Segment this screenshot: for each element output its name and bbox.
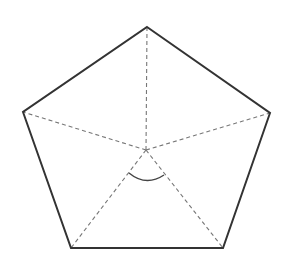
pentagon-outline: [23, 27, 270, 248]
radius-left: [23, 112, 146, 150]
pentagon-diagram: [0, 0, 299, 277]
radius-top: [146, 27, 147, 150]
radius-right: [146, 113, 270, 150]
central-angle-arc: [129, 173, 164, 181]
radius-bottom-left: [71, 150, 146, 248]
radius-bottom-right: [146, 150, 223, 248]
